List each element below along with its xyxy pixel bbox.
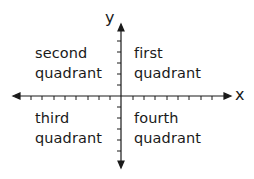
third-quadrant-label: third quadrant: [35, 108, 102, 148]
second-quadrant-line1: second: [35, 43, 102, 63]
axes-graphic: [0, 0, 254, 179]
third-quadrant-line1: third: [35, 108, 102, 128]
x-axis-right-arrow-icon: [224, 93, 231, 99]
fourth-quadrant-label: fourth quadrant: [134, 108, 201, 148]
x-axis: [13, 93, 231, 100]
third-quadrant-line2: quadrant: [35, 128, 102, 148]
fourth-quadrant-line2: quadrant: [134, 128, 201, 148]
first-quadrant-line2: quadrant: [134, 63, 201, 83]
first-quadrant-line1: first: [134, 43, 201, 63]
y-axis-up-arrow-icon: [118, 24, 124, 31]
first-quadrant-label: first quadrant: [134, 43, 201, 83]
second-quadrant-line2: quadrant: [35, 63, 102, 83]
y-axis-down-arrow-icon: [118, 161, 124, 168]
coordinate-plane-diagram: y x second quadrant first quadrant third…: [0, 0, 254, 179]
x-axis-left-arrow-icon: [13, 93, 20, 99]
x-axis-label: x: [235, 87, 244, 103]
second-quadrant-label: second quadrant: [35, 43, 102, 83]
fourth-quadrant-line1: fourth: [134, 108, 201, 128]
y-axis-label: y: [105, 10, 114, 26]
